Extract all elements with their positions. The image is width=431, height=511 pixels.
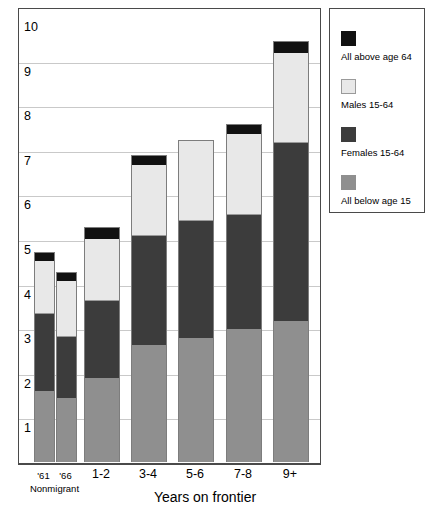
bar-segment-below15 <box>57 398 76 462</box>
legend: All above age 64Males 15-64Females 15-64… <box>329 8 425 213</box>
legend-entry-above64[interactable]: All above age 64 <box>341 31 421 62</box>
x-axis-group-label-nonmigrant: Nonmigrant <box>10 484 100 494</box>
bar-3-4[interactable] <box>131 155 167 462</box>
bar-segment-males <box>35 261 54 314</box>
bar-segment-females <box>85 301 119 377</box>
bar-segment-females <box>35 314 54 391</box>
bar-segment-females <box>179 221 213 337</box>
x-axis-title: Years on frontier <box>95 489 315 505</box>
bar-segment-above64 <box>274 42 308 53</box>
bar-segment-above64 <box>35 253 54 261</box>
bar-segment-males <box>179 141 213 221</box>
legend-label-males: Males 15-64 <box>341 99 421 110</box>
legend-entry-below15[interactable]: All below age 15 <box>341 175 421 206</box>
bar-segment-females <box>227 215 261 329</box>
plot-area: 12345678910 <box>18 8 321 464</box>
legend-entry-females[interactable]: Females 15-64 <box>341 127 421 158</box>
bar-61[interactable] <box>34 252 55 462</box>
legend-label-females: Females 15-64 <box>341 147 421 158</box>
bar-segment-below15 <box>227 329 261 462</box>
bar-5-6[interactable] <box>178 140 214 462</box>
bar-7-8[interactable] <box>226 124 262 462</box>
bar-segment-females <box>57 337 76 397</box>
bar-segment-males <box>57 281 76 337</box>
legend-entry-males[interactable]: Males 15-64 <box>341 79 421 110</box>
bar-segment-males <box>274 53 308 144</box>
bar-segment-males <box>227 134 261 215</box>
chart-root: 12345678910 '61'661-23-45-67-89+ Nonmigr… <box>0 0 431 511</box>
bar-segment-below15 <box>179 338 213 463</box>
legend-swatch-above64-icon <box>341 31 356 46</box>
bar-66[interactable] <box>56 272 77 462</box>
x-tick-label-9: 9+ <box>260 468 320 481</box>
bar-1-2[interactable] <box>84 227 120 462</box>
bar-segment-above64 <box>132 156 166 165</box>
bar-segment-females <box>132 236 166 344</box>
legend-swatch-females-icon <box>341 127 356 142</box>
bar-segment-below15 <box>85 378 119 462</box>
legend-swatch-below15-icon <box>341 175 356 190</box>
bar-segment-males <box>85 239 119 302</box>
bar-segment-below15 <box>35 391 54 462</box>
legend-swatch-males-icon <box>341 79 356 94</box>
legend-label-below15: All below age 15 <box>341 195 421 206</box>
bar-segment-above64 <box>57 273 76 281</box>
x-axis-line <box>18 463 321 465</box>
bar-segment-below15 <box>274 321 308 462</box>
bar-segment-above64 <box>85 228 119 239</box>
bar-segment-females <box>274 143 308 320</box>
bar-9[interactable] <box>273 41 309 462</box>
legend-label-above64: All above age 64 <box>341 51 421 62</box>
bar-segment-above64 <box>227 125 261 134</box>
bar-segment-below15 <box>132 345 166 462</box>
bars-container <box>19 9 320 463</box>
bar-segment-males <box>132 165 166 237</box>
